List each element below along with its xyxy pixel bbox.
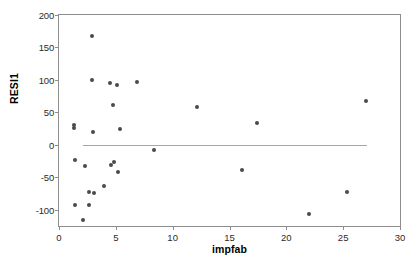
data-point — [87, 190, 91, 194]
y-axis-tick-label: -50 — [41, 172, 54, 183]
y-axis-tick-mark — [55, 80, 59, 81]
data-point — [255, 121, 259, 125]
data-point — [111, 103, 115, 107]
y-axis-title: RESI1 — [8, 73, 20, 104]
plot-frame: 200150100500-50-100051015202530 — [58, 14, 401, 227]
data-point — [116, 170, 120, 174]
y-axis-tick-label: 100 — [39, 74, 54, 85]
data-point — [364, 99, 368, 103]
data-point — [102, 184, 106, 188]
x-axis-tick-mark — [400, 226, 401, 230]
y-axis-tick-label: 0 — [49, 139, 54, 150]
data-point — [91, 130, 95, 134]
x-axis-tick-label: 20 — [281, 232, 292, 243]
y-axis-tick-mark — [55, 112, 59, 113]
x-axis-tick-label: 30 — [395, 232, 406, 243]
x-axis-tick-label: 10 — [167, 232, 178, 243]
data-point — [108, 81, 112, 85]
data-point — [92, 191, 96, 195]
y-axis-tick-mark — [55, 177, 59, 178]
data-point — [115, 83, 119, 87]
y-axis-tick-mark — [55, 47, 59, 48]
plot-area — [59, 15, 400, 226]
x-axis-tick-mark — [116, 226, 117, 230]
y-axis-tick-label: -100 — [36, 204, 54, 215]
data-point — [83, 164, 87, 168]
data-point — [152, 148, 156, 152]
data-point — [345, 190, 349, 194]
y-axis-tick-mark — [55, 210, 59, 211]
data-point — [195, 105, 199, 109]
x-axis-tick-mark — [230, 226, 231, 230]
data-point — [73, 203, 77, 207]
y-axis-tick-label: 150 — [39, 42, 54, 53]
data-point — [90, 34, 94, 38]
data-point — [240, 168, 244, 172]
y-axis-tick-label: 50 — [44, 107, 54, 118]
x-axis-tick-mark — [343, 226, 344, 230]
x-axis-title: impfab — [58, 243, 401, 255]
data-point — [73, 158, 77, 162]
data-point — [135, 80, 139, 84]
x-axis-tick-mark — [59, 226, 60, 230]
y-axis-tick-mark — [55, 15, 59, 16]
data-point — [112, 160, 116, 164]
y-axis-tick-mark — [55, 145, 59, 146]
y-axis-tick-label: 200 — [39, 10, 54, 21]
x-axis-tick-mark — [173, 226, 174, 230]
x-axis-tick-label: 25 — [338, 232, 349, 243]
x-axis-tick-label: 0 — [56, 232, 61, 243]
data-point — [87, 203, 91, 207]
scatter-chart: 200150100500-50-100051015202530 impfab R… — [0, 0, 420, 263]
zero-reference-line — [83, 145, 367, 146]
x-axis-tick-mark — [286, 226, 287, 230]
data-point — [72, 126, 76, 130]
x-axis-tick-label: 15 — [224, 232, 235, 243]
data-point — [90, 78, 94, 82]
data-point — [307, 212, 311, 216]
data-point — [81, 218, 85, 222]
x-axis-tick-label: 5 — [113, 232, 118, 243]
data-point — [118, 127, 122, 131]
